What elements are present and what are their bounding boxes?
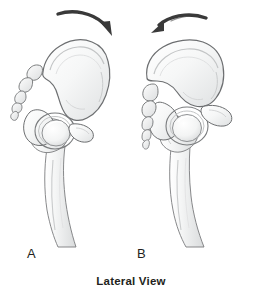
panel-a-illustration <box>0 0 131 250</box>
panel-b-illustration <box>131 0 262 250</box>
figure-caption: Lateral View <box>0 275 262 287</box>
femoral-shaft <box>45 146 76 247</box>
femoral-head <box>173 115 202 142</box>
anatomy-figure: A B Lateral View <box>0 0 262 297</box>
panel-b-lateral-pelvis <box>131 0 262 250</box>
ilium <box>147 40 224 107</box>
anterior-pelvic-tilt-arrow <box>151 15 206 33</box>
panel-label-a: A <box>27 247 36 260</box>
ilium <box>43 40 110 121</box>
femoral-head <box>42 120 70 146</box>
pubis <box>201 105 232 126</box>
panel-a-lateral-pelvis <box>0 0 131 250</box>
posterior-pelvic-tilt-arrow <box>58 12 112 36</box>
panel-label-b: B <box>137 247 146 260</box>
femoral-shaft <box>170 146 204 247</box>
